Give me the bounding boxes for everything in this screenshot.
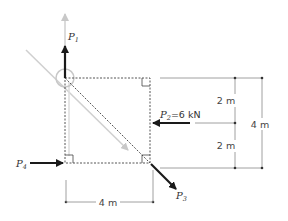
right-angle-mark-top-right-icon [142,78,150,86]
diagonal-line-of-action-icon [26,50,128,150]
right-angle-mark-bottom-right-icon [142,155,150,163]
diagonal-member [65,78,150,163]
dimension-upper-label: 2 m [217,95,235,106]
force-labels: P1 P2=6 kN P3 P4 [15,31,201,203]
label-p4: P4 [15,158,27,171]
label-p1: P1 [67,31,79,44]
label-p2: P2=6 kN [159,109,201,122]
dimension-total-vertical-label: 4 m [251,119,269,130]
frame [65,78,150,163]
right-angle-mark-bottom-left-icon [65,155,73,163]
label-p3: P3 [175,190,187,203]
force-diagram: P1 P2=6 kN P3 P4 2 m 2 m 4 m [0,0,288,221]
dimension-horizontal-label: 4 m [99,197,117,208]
dimension-lower-label: 2 m [217,140,235,151]
